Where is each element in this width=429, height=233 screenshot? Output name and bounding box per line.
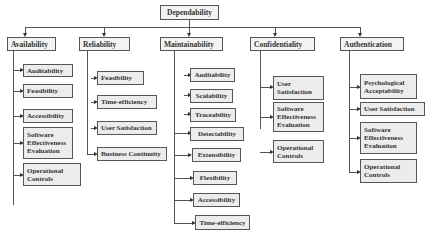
leaf-operational-controls: Operational Controls	[273, 140, 324, 163]
category-reliability: Reliability	[79, 37, 130, 51]
leaf-detectability: Detectability	[190, 127, 244, 141]
branch-line	[13, 51, 14, 205]
branch-tick	[174, 223, 194, 224]
leaf-feasibility: Feasibility	[97, 71, 144, 85]
category-availability: Availability	[7, 37, 56, 51]
branch-line	[174, 51, 175, 223]
category-maintainability: Maintainability	[160, 37, 223, 51]
leaf-user-satisfaction: User Satisfaction	[273, 76, 324, 100]
leaf-flexibility: Flexibility	[193, 171, 237, 185]
leaf-auditability: Auditability	[23, 64, 73, 77]
leaf-software-effectiveness-evaluation: Software Effectiveness Evaluation	[273, 102, 324, 132]
branch-line	[349, 51, 350, 172]
root-connector	[189, 20, 190, 27]
category-authentication: Authentication	[340, 37, 404, 51]
leaf-user-satisfaction: User Satisfaction	[97, 121, 157, 135]
leaf-time-efficiency: Time-efficiency	[97, 95, 157, 109]
leaf-time-efficiency: Time-efficiency	[195, 215, 250, 230]
leaf-traceability: Traceability	[190, 108, 236, 122]
branch-line	[87, 51, 88, 154]
category-confidentiality: Confidentiality	[250, 37, 315, 51]
leaf-software-effectiveness-evaluation: Software Effectiveness Evaluation	[360, 122, 417, 154]
level1-bus	[25, 27, 361, 28]
leaf-operational-controls: Operational Controls	[23, 163, 81, 186]
leaf-accessibility: Accessibility	[193, 193, 240, 207]
root-node-dependability: Dependability	[160, 5, 219, 20]
leaf-auditability: Auditability	[190, 68, 235, 82]
leaf-feasibility: Feasibility	[23, 84, 73, 98]
leaf-accessibility: Accessibility	[23, 109, 73, 123]
leaf-user-satisfaction: User Satisfaction	[360, 102, 425, 116]
leaf-operational-controls: Operational Controls	[360, 159, 417, 183]
leaf-extensibility: Extensibility	[192, 148, 241, 162]
leaf-psychological-acceptability: Psychological Acceptability	[360, 74, 417, 99]
dependability-tree-diagram: Dependability Availability Auditability …	[0, 0, 429, 233]
leaf-software-effectiveness-evaluation: Software Effectiveness Evaluation	[23, 127, 73, 159]
leaf-business-continuity: Business Continuity	[97, 147, 167, 161]
leaf-scalability: Scalability	[190, 89, 233, 103]
